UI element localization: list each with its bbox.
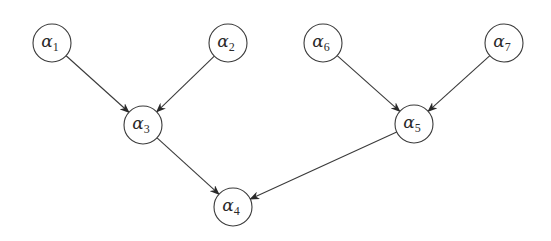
- edge-a6-to-a5: [337, 56, 400, 112]
- nodes: α1α2α3α4α5α6α7: [33, 24, 523, 226]
- node-a5: α5: [395, 105, 433, 143]
- node-a1: α1: [33, 24, 71, 62]
- node-a6: α6: [304, 24, 342, 62]
- node-a4: α4: [214, 188, 252, 226]
- node-a3: α3: [124, 106, 162, 144]
- edge-a3-to-a4: [157, 138, 219, 194]
- edge-a1-to-a3: [66, 56, 129, 113]
- node-a7: α7: [485, 24, 523, 62]
- directed-graph: α1α2α3α4α5α6α7: [0, 0, 551, 241]
- edge-a2-to-a3: [157, 56, 215, 112]
- edge-a7-to-a5: [428, 56, 490, 112]
- edge-a5-to-a4: [250, 132, 396, 199]
- node-a2: α2: [209, 24, 247, 62]
